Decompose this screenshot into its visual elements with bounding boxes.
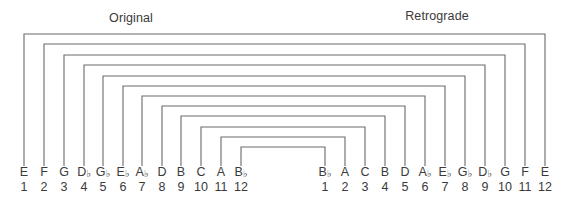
original-note-5: G♭5	[96, 166, 110, 194]
connector-bracket	[103, 76, 465, 166]
note-letter: B	[381, 165, 389, 179]
note-position-number: 7	[135, 180, 148, 194]
note-position-number: 8	[458, 180, 472, 194]
note-letter: E	[541, 165, 549, 179]
note-position-number: 8	[157, 180, 166, 194]
flat-icon: ♭	[144, 168, 149, 179]
note-name: E	[20, 166, 28, 179]
note-position-number: 1	[20, 180, 28, 194]
retrograde-note-9: D♭9	[478, 166, 492, 194]
note-name: G	[498, 166, 512, 179]
note-name: G♭	[96, 166, 110, 179]
retrograde-note-10: G10	[498, 166, 512, 194]
original-note-9: B9	[177, 166, 185, 194]
note-name: A	[215, 166, 228, 179]
note-name: B♭	[234, 166, 248, 179]
connector-bracket	[181, 116, 385, 166]
note-position-number: 11	[215, 180, 228, 194]
note-position-number: 2	[40, 180, 48, 194]
original-note-6: E♭6	[116, 166, 129, 194]
retrograde-note-12: E12	[538, 166, 552, 194]
connector-bracket	[24, 34, 545, 166]
original-note-4: D♭4	[77, 166, 91, 194]
note-position-number: 5	[400, 180, 409, 194]
note-name: D	[157, 166, 166, 179]
retrograde-note-4: B4	[381, 166, 389, 194]
note-position-number: 11	[519, 180, 532, 194]
note-name: A	[341, 166, 349, 179]
note-position-number: 10	[194, 180, 208, 194]
note-letter: C	[196, 165, 205, 179]
note-letter: G	[59, 165, 69, 179]
note-letter: A	[341, 165, 349, 179]
connector-bracket	[123, 86, 445, 166]
note-position-number: 7	[438, 180, 451, 194]
note-name: B♭	[318, 166, 331, 179]
note-letter: G	[458, 165, 468, 179]
flat-icon: ♭	[125, 168, 130, 179]
note-letter: C	[360, 165, 369, 179]
flat-icon: ♭	[427, 168, 432, 179]
flat-icon: ♭	[487, 168, 492, 179]
note-letter: B	[177, 165, 185, 179]
note-name: G♭	[458, 166, 472, 179]
note-letter: B	[234, 165, 242, 179]
note-letter: E	[20, 165, 28, 179]
connector-bracket	[44, 44, 525, 166]
retrograde-note-7: E♭7	[438, 166, 451, 194]
note-name: D♭	[77, 166, 91, 179]
note-position-number: 9	[478, 180, 492, 194]
original-note-2: F2	[40, 166, 48, 194]
note-position-number: 6	[418, 180, 431, 194]
note-position-number: 1	[318, 180, 331, 194]
note-name: D	[400, 166, 409, 179]
flat-icon: ♭	[447, 168, 452, 179]
connector-bracket	[64, 55, 505, 166]
retrograde-diagram: Original Retrograde E1F2G3D♭4G♭5E♭6A♭7D8…	[0, 0, 571, 211]
note-letter: D	[77, 165, 86, 179]
note-position-number: 12	[234, 180, 248, 194]
note-name: E♭	[116, 166, 129, 179]
retrograde-note-2: A2	[341, 166, 349, 194]
flat-icon: ♭	[468, 168, 473, 179]
flat-icon: ♭	[86, 168, 91, 179]
note-letter: G	[96, 165, 106, 179]
note-name: A♭	[418, 166, 431, 179]
flat-icon: ♭	[106, 168, 111, 179]
note-name: F	[40, 166, 48, 179]
flat-icon: ♭	[243, 168, 248, 179]
retrograde-note-1: B♭1	[318, 166, 331, 194]
note-position-number: 4	[77, 180, 91, 194]
note-position-number: 12	[538, 180, 552, 194]
original-note-10: C10	[194, 166, 208, 194]
note-position-number: 5	[96, 180, 110, 194]
note-name: G	[59, 166, 69, 179]
note-letter: D	[400, 165, 409, 179]
original-note-8: D8	[157, 166, 166, 194]
note-name: C	[194, 166, 208, 179]
connector-bracket	[221, 137, 345, 166]
original-note-1: E1	[20, 166, 28, 194]
note-name: C	[360, 166, 369, 179]
note-position-number: 3	[59, 180, 69, 194]
retrograde-note-11: F11	[519, 166, 532, 194]
retrograde-note-5: D5	[400, 166, 409, 194]
note-letter: D	[157, 165, 166, 179]
note-position-number: 9	[177, 180, 185, 194]
note-letter: D	[478, 165, 487, 179]
original-note-12: B♭12	[234, 166, 248, 194]
original-note-7: A♭7	[135, 166, 148, 194]
retrograde-note-8: G♭8	[458, 166, 472, 194]
note-name: B	[177, 166, 185, 179]
note-position-number: 6	[116, 180, 129, 194]
note-name: D♭	[478, 166, 492, 179]
note-name: B	[381, 166, 389, 179]
note-name: F	[519, 166, 532, 179]
original-note-3: G3	[59, 166, 69, 194]
original-note-11: A11	[215, 166, 228, 194]
retrograde-note-3: C3	[360, 166, 369, 194]
note-position-number: 4	[381, 180, 389, 194]
note-name: E	[538, 166, 552, 179]
note-letter: F	[521, 165, 529, 179]
connector-bracket	[162, 106, 405, 166]
